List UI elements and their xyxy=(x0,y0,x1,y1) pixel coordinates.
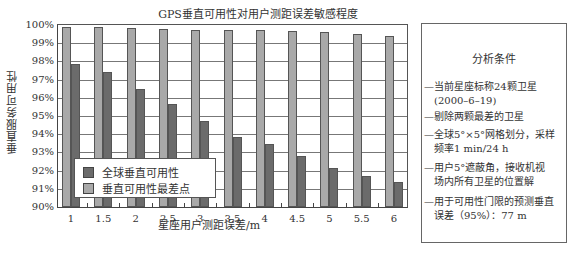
x-tick-label: 5.5 xyxy=(347,213,377,224)
bar-global xyxy=(394,182,403,207)
y-tick-label: 98% xyxy=(14,56,54,66)
info-line: 场内所有卫星的位置解 xyxy=(424,175,562,189)
minor-tick xyxy=(87,203,88,207)
info-line: —用于可用性门限的预测垂直 xyxy=(424,196,554,207)
info-line: —全球5°×5°网格划分，采样 xyxy=(424,129,555,140)
legend: 全球垂直可用性 垂直可用性最差点 xyxy=(74,158,216,198)
bar-worst-point xyxy=(385,36,394,207)
minor-tick xyxy=(119,203,120,207)
y-tick-label: 94% xyxy=(14,129,54,139)
info-line: —当前星座标称24颗卫星 xyxy=(424,81,537,92)
bar-worst-point xyxy=(224,30,233,207)
x-tick-label: 4.5 xyxy=(282,213,312,224)
legend-label: 垂直可用性最差点 xyxy=(102,180,190,196)
legend-swatch-light xyxy=(83,183,94,194)
info-item: —用户5°遮蔽角，接收机视 场内所有卫星的位置解 xyxy=(424,161,562,189)
x-tick-label: 1 xyxy=(56,213,86,224)
info-line: —用户5°遮蔽角，接收机视 xyxy=(424,162,545,173)
bar-worst-point xyxy=(288,31,297,207)
y-tick-label: 99% xyxy=(14,38,54,48)
info-line: 频率1 min/24 h xyxy=(424,142,562,156)
info-item: —当前星座标称24颗卫星 (2000–6–19) xyxy=(424,80,562,108)
y-tick-label: 96% xyxy=(14,93,54,103)
x-tick-label: 1.5 xyxy=(88,213,118,224)
info-title: 分析条件 xyxy=(422,50,566,66)
bar-worst-point xyxy=(353,34,362,207)
legend-item-global: 全球垂直可用性 xyxy=(83,164,179,180)
bar-global xyxy=(233,137,242,207)
minor-tick xyxy=(281,203,282,207)
minor-tick xyxy=(152,203,153,207)
x-tick-label: 2 xyxy=(121,213,151,224)
bar-worst-point xyxy=(320,32,329,207)
x-tick-label: 6 xyxy=(379,213,409,224)
minor-tick xyxy=(313,203,314,207)
analysis-conditions-box: 分析条件 —当前星座标称24颗卫星 (2000–6–19) —剔除两颗最差的卫星… xyxy=(421,23,567,243)
minor-tick xyxy=(346,203,347,207)
info-line: (2000–6–19) xyxy=(424,94,562,108)
minor-tick xyxy=(249,203,250,207)
chart-title: GPS垂直可用性对用户测距误差敏感程度 xyxy=(108,5,408,21)
bar-global xyxy=(329,168,338,207)
info-line: 误差（95%）：77 m xyxy=(424,209,562,223)
info-item: —用于可用性门限的预测垂直 误差（95%）：77 m xyxy=(424,195,562,223)
bar-global xyxy=(362,176,371,207)
legend-label: 全球垂直可用性 xyxy=(102,164,179,180)
minor-tick xyxy=(378,203,379,207)
y-tick-label: 95% xyxy=(14,111,54,121)
info-item: —剔除两颗最差的卫星 xyxy=(424,110,562,124)
minor-tick xyxy=(184,203,185,207)
bar-worst-point xyxy=(62,27,71,207)
bar-global xyxy=(265,144,274,207)
y-tick-label: 97% xyxy=(14,75,54,85)
y-tick-label: 90% xyxy=(14,202,54,212)
x-axis-label: 星座用户测距误差/m xyxy=(158,216,260,232)
y-tick-label: 100% xyxy=(14,20,54,30)
y-tick-label: 93% xyxy=(14,147,54,157)
legend-item-worst: 垂直可用性最差点 xyxy=(83,180,190,196)
x-tick-label: 5 xyxy=(314,213,344,224)
bar-global xyxy=(297,156,306,207)
y-tick-label: 92% xyxy=(14,166,54,176)
info-item: —全球5°×5°网格划分，采样 频率1 min/24 h xyxy=(424,128,562,156)
bar-worst-point xyxy=(256,30,265,207)
info-line: —剔除两颗最差的卫星 xyxy=(424,111,524,122)
minor-tick xyxy=(216,203,217,207)
legend-swatch-dark xyxy=(83,167,94,178)
y-tick-label: 91% xyxy=(14,184,54,194)
